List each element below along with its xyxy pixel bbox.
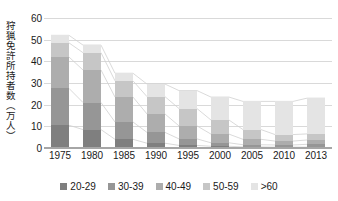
- bar-segment: [115, 81, 133, 97]
- bar-segment: [243, 101, 261, 129]
- y-axis-title: 狩猟免許所持者数（万人）: [2, 14, 18, 148]
- bar-segment: [275, 141, 293, 145]
- legend-item[interactable]: 40-49: [156, 181, 192, 192]
- x-tick-label: 1995: [177, 150, 199, 161]
- y-tick-label: 50: [18, 34, 42, 45]
- legend-label: >60: [261, 181, 278, 192]
- bar-segment: [147, 97, 165, 114]
- bar-segment: [211, 120, 229, 134]
- bar-segment: [179, 91, 197, 109]
- x-tick-label: 2000: [209, 150, 231, 161]
- x-tick-label: 2010: [273, 150, 295, 161]
- y-tick-label: 30: [18, 78, 42, 89]
- y-tick-label: 40: [18, 56, 42, 67]
- bar-segment: [147, 114, 165, 132]
- bar-segment: [115, 97, 133, 122]
- bar-group[interactable]: [115, 18, 133, 148]
- bar-segment: [147, 132, 165, 143]
- bar-segment: [243, 139, 261, 144]
- bar-segment: [51, 35, 69, 43]
- legend-swatch-icon: [203, 183, 210, 190]
- legend-label: 50-59: [213, 181, 239, 192]
- x-tick-label: 1980: [81, 150, 103, 161]
- x-tick-label: 2005: [241, 150, 263, 161]
- legend-label: 30-39: [118, 181, 144, 192]
- bar-group[interactable]: [179, 18, 197, 148]
- bar-segment: [307, 98, 325, 134]
- bar-group[interactable]: [83, 18, 101, 148]
- bar-segment: [179, 109, 197, 126]
- x-tick-label: 2013: [305, 150, 327, 161]
- bar-segment: [211, 143, 229, 146]
- bar-segment: [83, 45, 101, 53]
- legend-item[interactable]: 30-39: [108, 181, 144, 192]
- bar-segment: [243, 130, 261, 140]
- bar-group[interactable]: [275, 18, 293, 148]
- legend-swatch-icon: [108, 183, 115, 190]
- bar-segment: [51, 43, 69, 57]
- chart-legend: 20-2930-3940-4950-59>60: [0, 178, 338, 194]
- bar-segment: [115, 73, 133, 81]
- bar-segment: [51, 125, 69, 148]
- x-tick-label: 1990: [145, 150, 167, 161]
- stacked-bar-chart: 狩猟免許所持者数（万人） 6050403020100 1975198019851…: [0, 0, 338, 201]
- legend-swatch-icon: [156, 183, 163, 190]
- bar-segment: [51, 88, 69, 125]
- plot-area: [44, 18, 332, 148]
- x-tick-label: 1975: [49, 150, 71, 161]
- x-axis-line: [44, 147, 332, 148]
- bar-group[interactable]: [307, 18, 325, 148]
- bar-segment: [179, 126, 197, 139]
- legend-label: 40-49: [166, 181, 192, 192]
- bar-segment: [179, 139, 197, 146]
- legend-item[interactable]: 50-59: [203, 181, 239, 192]
- legend-item[interactable]: 20-29: [60, 181, 96, 192]
- bar-segment: [83, 70, 101, 103]
- bar-segment: [211, 97, 229, 120]
- x-axis-tick-labels: 197519801985199019952000200520102013: [44, 150, 332, 164]
- bar-group[interactable]: [211, 18, 229, 148]
- bar-segment: [147, 84, 165, 97]
- legend-item[interactable]: >60: [251, 181, 278, 192]
- bar-segment: [115, 122, 133, 139]
- bar-segment: [307, 140, 325, 144]
- gridline: [44, 148, 332, 149]
- bar-segment: [83, 103, 101, 130]
- legend-swatch-icon: [251, 183, 258, 190]
- y-tick-label: 0: [18, 143, 42, 154]
- legend-swatch-icon: [60, 183, 67, 190]
- bar-segment: [83, 130, 101, 148]
- y-tick-label: 60: [18, 13, 42, 24]
- bar-segment: [275, 135, 293, 142]
- bar-segment: [83, 53, 101, 70]
- bar-segment: [51, 57, 69, 88]
- bar-group[interactable]: [51, 18, 69, 148]
- bar-segment: [211, 134, 229, 143]
- y-tick-label: 20: [18, 99, 42, 110]
- y-axis-tick-labels: 6050403020100: [18, 18, 42, 148]
- bar-segment: [307, 134, 325, 140]
- x-tick-label: 1985: [113, 150, 135, 161]
- bar-segment: [275, 101, 293, 134]
- y-tick-label: 10: [18, 121, 42, 132]
- bar-group[interactable]: [243, 18, 261, 148]
- legend-label: 20-29: [70, 181, 96, 192]
- bar-group[interactable]: [147, 18, 165, 148]
